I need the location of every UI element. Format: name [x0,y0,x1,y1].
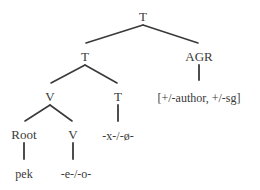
branch-v-upper-to-root [25,105,50,121]
branch-v-upper-to-v-lower [50,105,72,121]
node-t-mid: T [81,50,89,63]
syntactic-tree-figure: T T AGR V T Root V [+/-author, +/-sg] -x… [0,0,260,190]
terminal-t-exponent: -x-/-ø- [102,130,133,143]
branch-t-mid-to-t-lower [85,65,117,83]
node-v-upper: V [45,90,54,103]
node-t-root: T [139,10,147,23]
terminal-root-exponent: pek [15,168,32,181]
node-v-lower: V [68,128,77,141]
node-agr-features: [+/-author, +/-sg] [157,92,240,105]
node-agr: AGR [185,50,212,63]
branch-t-root-to-t-mid [86,25,143,43]
branch-t-root-to-agr [143,25,198,43]
branch-t-mid-to-v-upper [51,65,85,83]
node-t-lower: T [114,90,122,103]
node-root: Root [11,128,36,141]
terminal-v-exponent: -e-/-o- [61,168,92,181]
